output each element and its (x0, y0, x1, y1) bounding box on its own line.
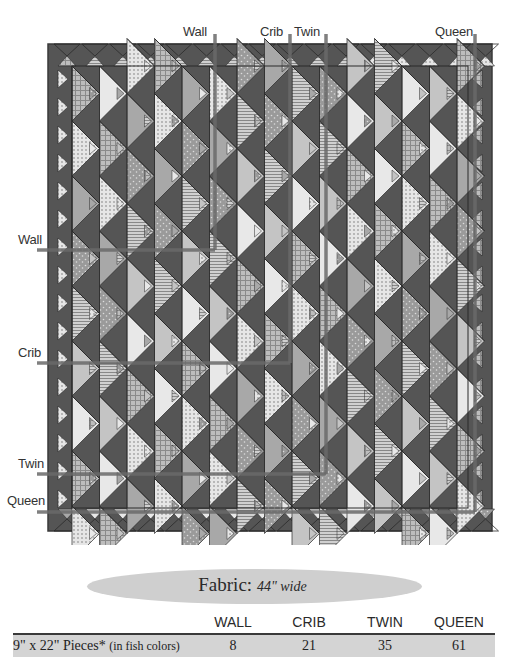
top-label-queen: Queen (435, 24, 473, 39)
top-label-twin: Twin (294, 24, 320, 39)
fabric-title-label: Fabric: (198, 574, 252, 595)
quilt-illustration (0, 0, 505, 545)
column-header-queen: QUEEN (424, 614, 494, 630)
cell-crib: 21 (274, 638, 344, 654)
left-label-twin: Twin (18, 456, 44, 471)
left-label-wall: Wall (18, 232, 42, 247)
cell-twin: 35 (350, 638, 420, 654)
quilt-body (48, 39, 499, 546)
column-header-twin: TWIN (350, 614, 420, 630)
cell-wall: 8 (198, 638, 268, 654)
top-label-wall: Wall (183, 24, 207, 39)
row-label-note: (in fish colors) (109, 639, 180, 653)
fabric-width: 44" wide (257, 579, 307, 594)
column-header-crib: CRIB (274, 614, 344, 630)
cell-queen: 61 (424, 638, 494, 654)
row-label-main: 9" x 22" Pieces* (13, 638, 106, 653)
top-label-crib: Crib (260, 24, 283, 39)
left-label-crib: Crib (18, 345, 41, 360)
fabric-title: Fabric: 44" wide (0, 574, 505, 596)
left-label-queen: Queen (7, 493, 45, 508)
column-header-wall: WALL (198, 614, 268, 630)
row-label: 9" x 22" Pieces* (in fish colors) (13, 638, 180, 654)
quilt-diagram (0, 0, 505, 545)
